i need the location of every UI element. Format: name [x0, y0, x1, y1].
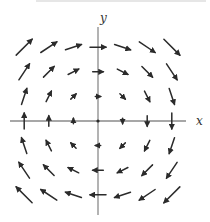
- vector-arrow: [41, 190, 57, 201]
- x-axis-label: x: [196, 114, 203, 128]
- vector-arrow: [96, 119, 99, 122]
- top-cutoff-text: [36, 0, 206, 2]
- vector-arrow: [117, 168, 128, 173]
- y-axis-label: y: [99, 11, 107, 25]
- vector-arrow: [19, 162, 30, 178]
- vector-arrow: [139, 42, 155, 53]
- vector-arrow: [66, 45, 82, 50]
- vector-arrow: [164, 39, 180, 55]
- vector-arrow: [120, 94, 125, 99]
- vector-arrow: [44, 67, 55, 78]
- vector-arrow: [22, 89, 27, 105]
- vector-field-plot: x y: [0, 0, 210, 222]
- vector-arrow: [46, 91, 51, 102]
- vector-arrow: [68, 168, 79, 173]
- vector-arrow: [142, 165, 153, 176]
- vector-arrow: [19, 64, 30, 80]
- vector-arrow: [117, 69, 128, 74]
- vector-arrow: [44, 165, 55, 176]
- vector-arrow: [142, 67, 153, 78]
- vector-arrow: [164, 187, 180, 203]
- vector-arrow: [66, 192, 82, 197]
- vector-arrow: [167, 162, 178, 178]
- vector-arrow: [115, 192, 131, 197]
- vector-arrow: [115, 45, 131, 50]
- vector-arrow: [16, 39, 32, 55]
- vector-arrow: [41, 42, 57, 53]
- vector-arrow: [71, 143, 76, 148]
- vector-arrow: [139, 190, 155, 201]
- vector-arrow: [71, 94, 76, 99]
- vector-arrow: [68, 69, 79, 74]
- vector-arrow: [145, 91, 150, 102]
- vector-arrow: [169, 89, 174, 105]
- vector-arrow: [169, 138, 174, 154]
- vector-arrow: [145, 140, 150, 151]
- vector-arrow: [120, 143, 125, 148]
- vector-arrow: [46, 140, 51, 151]
- vector-arrow: [16, 187, 32, 203]
- vector-arrow: [167, 64, 178, 80]
- vector-arrow: [22, 138, 27, 154]
